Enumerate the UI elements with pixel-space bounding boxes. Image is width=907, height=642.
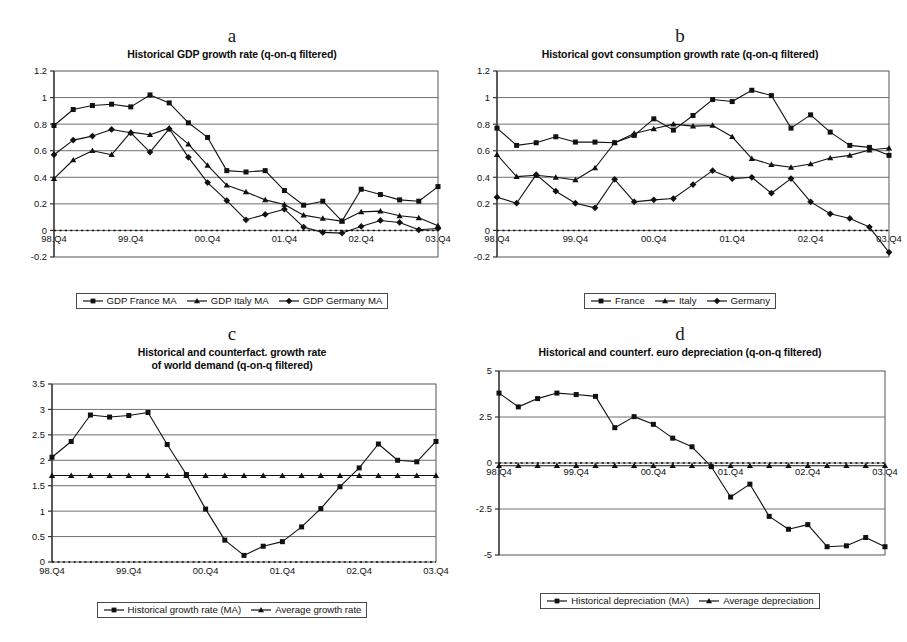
data-point-marker [395,458,400,463]
y-tick-label: -5 [484,549,492,560]
figure-page: a Historical GDP growth rate (q-on-q fil… [0,0,907,642]
data-point-marker [165,442,170,447]
data-point-marker [749,88,754,93]
data-point-marker [495,126,500,131]
panel-d-legend: Historical depreciation (MA)Average depr… [455,593,905,609]
cropped-header-text [0,0,907,10]
data-point-marker [242,553,247,558]
legend-marker-icon [82,296,104,306]
y-tick-label: 0.2 [34,198,47,209]
data-point-marker [825,544,830,549]
legend-item-label: Italy [679,295,697,306]
y-tick-label: -2.5 [476,503,492,514]
legend-item-label: GDP Germany MA [303,295,383,306]
legend-item[interactable]: France [590,295,645,306]
data-point-marker [651,116,656,121]
legend-item-label: Average growth rate [275,604,361,615]
data-point-marker [534,140,539,145]
data-point-marker [632,414,637,419]
data-point-marker [786,527,791,532]
data-point-marker [107,415,112,420]
panel-c-legend: Historical growth rate (MA)Average growt… [8,602,456,618]
y-tick-label: 1.5 [32,480,45,491]
x-tick-label: 98.Q4 [39,565,65,576]
y-tick-label: 2.5 [32,429,45,440]
data-point-marker [710,97,715,102]
y-tick-label: 1.2 [477,65,490,76]
panel-a-letter: a [8,24,456,48]
legend-marker-icon [698,596,720,606]
x-tick-label: 02.Q4 [798,233,824,244]
panel-b-title: Historical govt consumption growth rate … [455,48,905,61]
legend-marker-icon [250,605,272,615]
panel-a-plot: -0.200.20.40.60.811.298.Q499.Q400.Q401.Q… [8,61,456,291]
y-tick-label: 5 [487,365,492,376]
panel-a-title: Historical GDP growth rate (q-on-q filte… [8,48,456,61]
legend-item[interactable]: Historical depreciation (MA) [546,595,689,606]
data-point-marker [805,522,810,527]
legend-item-label: Average depreciation [723,595,814,606]
data-point-marker [224,168,229,173]
legend-item-label: France [615,295,645,306]
legend-item-label: GDP France MA [107,295,177,306]
legend-item[interactable]: Average growth rate [250,604,361,615]
panel-c-svg: 00.511.522.533.598.Q499.Q400.Q401.Q402.Q… [8,372,456,600]
legend-item[interactable]: Historical growth rate (MA) [103,604,242,615]
x-tick-label: 02.Q4 [346,565,372,576]
legend-item-label: Historical depreciation (MA) [571,595,689,606]
data-point-marker [651,422,656,427]
data-point-marker [690,444,695,449]
data-point-marker [434,439,439,444]
data-point-marker [573,140,578,145]
data-point-marker [828,130,833,135]
legend-box: Historical growth rate (MA)Average growt… [97,602,368,618]
legend-item[interactable]: GDP Italy MA [186,295,269,306]
legend-item[interactable]: Italy [654,295,697,306]
panel-b-svg: -0.200.20.40.60.811.298.Q499.Q400.Q401.Q… [455,61,905,291]
panel-c-title-line2: of world demand (q-on-q filtered) [8,359,456,372]
y-tick-label: 3 [40,404,45,415]
data-point-marker [128,104,133,109]
x-tick-label: 00.Q4 [195,233,221,244]
data-point-marker [728,495,733,500]
data-point-marker [769,93,774,98]
data-point-marker [554,391,559,396]
legend-item-label: GDP Italy MA [211,295,269,306]
panel-b-letter: b [455,24,905,48]
legend-box: FranceItalyGermany [584,293,776,309]
y-tick-label: 0.4 [477,172,490,183]
panel-d-letter: d [455,322,905,346]
legend-item[interactable]: GDP Germany MA [278,295,383,306]
data-point-marker [186,120,191,125]
y-tick-label: 0.5 [32,531,45,542]
x-tick-label: 01.Q4 [719,233,745,244]
legend-item[interactable]: Germany [706,295,770,306]
data-point-marker [282,188,287,193]
x-tick-label: 98.Q4 [484,233,510,244]
legend-box: GDP France MAGDP Italy MAGDP Germany MA [76,293,389,309]
x-tick-label: 02.Q4 [348,233,374,244]
data-point-marker [808,112,813,117]
panel-d-title: Historical and counterf. euro depreciati… [455,346,905,359]
x-tick-label: 98.Q4 [41,233,67,244]
legend-item-label: Germany [731,295,770,306]
data-point-marker [126,413,131,418]
data-point-marker [612,425,617,430]
legend-item[interactable]: Average depreciation [698,595,814,606]
panel-b-legend: FranceItalyGermany [455,293,905,309]
y-tick-label: 0.6 [477,145,490,156]
y-tick-label: 1 [485,92,490,103]
y-tick-label: 0.4 [34,172,47,183]
panel-c: c Historical and counterfact. growth rat… [8,322,456,618]
y-tick-label: 0.8 [477,119,490,130]
data-point-marker [261,544,266,549]
panel-d-svg: -5-2.502.5598.Q499.Q400.Q401.Q402.Q403.Q… [455,359,905,591]
data-point-marker [844,543,849,548]
panel-b-plot: -0.200.20.40.60.811.298.Q499.Q400.Q401.Q… [455,61,905,291]
data-point-marker [148,92,153,97]
panel-b: b Historical govt consumption growth rat… [455,24,905,309]
y-tick-label: 0.2 [477,198,490,209]
data-point-marker [414,459,419,464]
legend-marker-icon [706,296,728,306]
legend-item[interactable]: GDP France MA [82,295,177,306]
